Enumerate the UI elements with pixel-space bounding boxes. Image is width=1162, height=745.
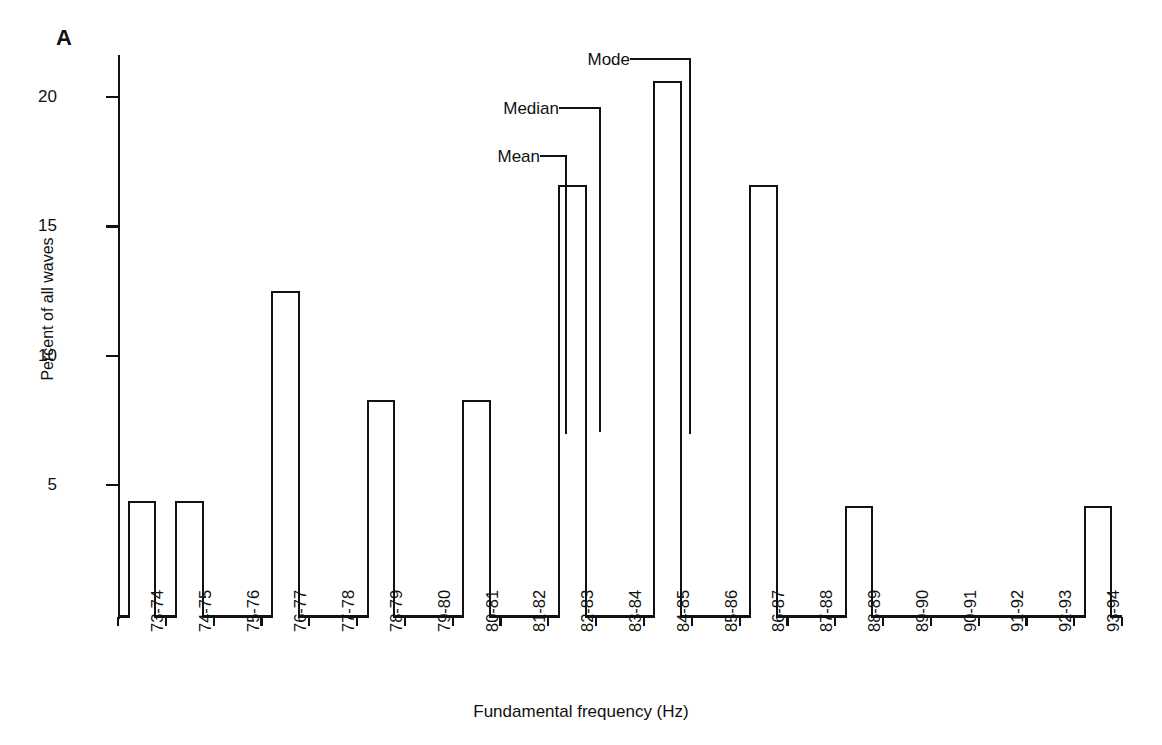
- annotation-leader-horizontal-mean: [540, 155, 566, 157]
- x-category-label: 83-84: [627, 542, 644, 632]
- annotation-leader-horizontal-mode: [630, 58, 690, 60]
- x-category-label: 73-74: [149, 542, 166, 632]
- x-category-label: 78-79: [388, 542, 405, 632]
- y-tick-mark: [106, 225, 119, 227]
- x-category-label: 74-75: [197, 542, 214, 632]
- x-tick-mark: [117, 617, 119, 626]
- x-axis-title: Fundamental frequency (Hz): [0, 702, 1162, 722]
- x-category-label: 75-76: [245, 542, 262, 632]
- x-category-label: 79-80: [436, 542, 453, 632]
- x-category-label: 85-86: [723, 542, 740, 632]
- annotation-leader-horizontal-median: [559, 107, 600, 109]
- x-category-label: 82-83: [579, 542, 596, 632]
- x-category-label: 81-82: [531, 542, 548, 632]
- x-category-label: 84-85: [675, 542, 692, 632]
- y-tick-label: 5: [0, 476, 57, 493]
- y-tick-label: 20: [0, 88, 57, 105]
- y-tick-mark: [106, 96, 119, 98]
- y-tick-label: 15: [0, 217, 57, 234]
- x-category-label: 87-88: [818, 542, 835, 632]
- x-category-label: 93-94: [1105, 542, 1122, 632]
- annotation-label-median: Median: [399, 100, 559, 117]
- annotation-label-mode: Mode: [470, 51, 630, 68]
- y-tick-label: 10: [0, 347, 57, 364]
- y-axis-ticks: 5101520: [0, 0, 119, 640]
- y-tick-mark: [106, 355, 119, 357]
- x-category-label: 80-81: [484, 542, 501, 632]
- x-category-label: 92-93: [1057, 542, 1074, 632]
- y-tick-mark: [106, 484, 119, 486]
- annotation-leader-vertical-mean: [565, 155, 567, 434]
- x-category-label: 77-78: [340, 542, 357, 632]
- x-category-label: 88-89: [866, 542, 883, 632]
- x-category-label: 86-87: [770, 542, 787, 632]
- x-category-label: 91-92: [1009, 542, 1026, 632]
- annotation-label-mean: Mean: [380, 148, 540, 165]
- annotation-leader-vertical-mode: [689, 58, 691, 434]
- x-category-label: 76-77: [292, 542, 309, 632]
- x-category-label: 89-90: [914, 542, 931, 632]
- x-category-label: 90-91: [962, 542, 979, 632]
- annotation-leader-vertical-median: [599, 107, 601, 432]
- bar: [653, 81, 682, 618]
- figure-panel-a: A Percent of all waves Fundamental frequ…: [0, 0, 1162, 745]
